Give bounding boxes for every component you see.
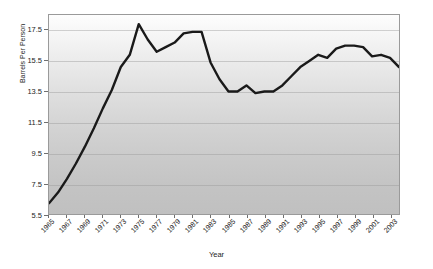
y-tick-mark-11.5: [44, 122, 48, 123]
line-series-layer: [49, 15, 399, 214]
y-tick-mark-15.5: [44, 60, 48, 61]
x-tick-mark-1965: [48, 215, 49, 218]
x-tick-mark-1987: [247, 215, 248, 218]
x-tick-mark-1995: [319, 215, 320, 218]
y-axis-tick-labels: 5.57.59.511.513.515.517.5: [0, 14, 46, 215]
y-tick-label-15.5: 15.5: [27, 56, 42, 65]
y-tick-mark-17.5: [44, 29, 48, 30]
x-tick-mark-1997: [337, 215, 338, 218]
line-series-barrels-per-person: [49, 15, 399, 214]
x-tick-mark-1975: [138, 215, 139, 218]
y-tick-mark-7.5: [44, 184, 48, 185]
x-tick-mark-1971: [102, 215, 103, 218]
x-tick-mark-1993: [301, 215, 302, 218]
x-tick-mark-1977: [156, 215, 157, 218]
x-tick-mark-1981: [192, 215, 193, 218]
y-tick-label-9.5: 9.5: [32, 149, 42, 158]
x-tick-mark-2001: [373, 215, 374, 218]
x-tick-mark-1969: [84, 215, 85, 218]
series-polyline: [49, 24, 399, 203]
x-axis-title: Year: [0, 250, 433, 259]
x-tick-mark-1991: [283, 215, 284, 218]
x-tick-mark-1999: [355, 215, 356, 218]
x-tick-mark-2003: [391, 215, 392, 218]
x-tick-mark-1973: [120, 215, 121, 218]
chart-container: Barrels Per Person 5.57.59.511.513.515.5…: [0, 0, 433, 269]
x-tick-mark-1967: [66, 215, 67, 218]
x-tick-mark-1983: [210, 215, 211, 218]
y-tick-mark-9.5: [44, 153, 48, 154]
x-tick-mark-1989: [265, 215, 266, 218]
x-tick-mark-1985: [229, 215, 230, 218]
plot-area: [48, 14, 400, 215]
x-tick-mark-1979: [174, 215, 175, 218]
y-tick-label-11.5: 11.5: [28, 118, 42, 127]
y-tick-label-17.5: 17.5: [27, 25, 42, 34]
y-tick-mark-13.5: [44, 91, 48, 92]
y-tick-label-7.5: 7.5: [32, 180, 42, 189]
y-tick-label-13.5: 13.5: [27, 87, 42, 96]
x-axis-tick-labels: 1965196719691971197319751977197919811983…: [0, 215, 433, 255]
